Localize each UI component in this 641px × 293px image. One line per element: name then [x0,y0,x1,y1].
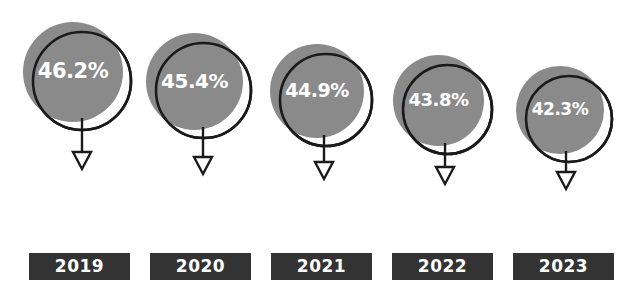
bubble-graphic-2022 [390,52,496,211]
bubble-chart: 46.2%45.4%44.9%43.8%42.3%201920202021202… [0,0,641,293]
bubble-group-2019: 46.2% [20,19,135,197]
year-label-box-2023: 2023 [513,253,614,280]
bubble-group-2020: 45.4% [143,30,255,201]
year-label-box-2020: 2020 [150,253,251,280]
year-label-text: 2023 [539,258,588,275]
bubble-value-2020: 45.4% [146,71,243,91]
bubble-value-2021: 44.9% [270,81,364,100]
year-label-box-2022: 2022 [392,253,493,280]
year-label-text: 2020 [176,258,225,275]
bubble-group-2021: 44.9% [267,41,376,206]
year-label-text: 2021 [297,258,346,275]
bubble-graphic-2021 [267,41,376,206]
year-label-text: 2022 [418,258,467,275]
bubble-group-2023: 42.3% [513,63,616,216]
bubble-value-2022: 43.8% [393,91,484,109]
bubble-value-2023: 42.3% [516,101,604,118]
bubble-graphic-2019 [20,19,135,197]
bubble-graphic-2023 [513,63,616,216]
bubble-graphic-2020 [143,30,255,201]
year-label-text: 2019 [55,258,104,275]
year-label-box-2019: 2019 [29,253,130,280]
bubble-group-2022: 43.8% [390,52,496,211]
year-label-box-2021: 2021 [271,253,372,280]
bubble-value-2019: 46.2% [23,61,123,82]
